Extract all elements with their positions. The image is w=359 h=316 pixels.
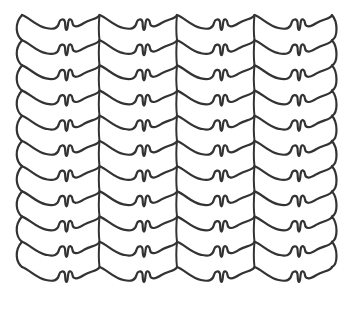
pattern-junction	[176, 15, 177, 40]
pattern-row-line	[22, 40, 337, 65]
pattern-junction	[254, 141, 255, 166]
pattern-row-line	[22, 91, 337, 116]
pattern-junction	[176, 217, 177, 242]
pattern-junction	[99, 91, 100, 116]
pattern-row-line	[22, 166, 337, 191]
pattern-junction	[254, 40, 255, 65]
pattern-junction	[99, 166, 100, 191]
pattern-left-lobe	[17, 40, 22, 65]
pattern-junction	[99, 40, 100, 65]
pattern-junction	[99, 116, 100, 141]
pattern-junction	[99, 65, 100, 90]
pattern-junction	[254, 91, 255, 116]
pattern-left-lobe	[17, 65, 22, 90]
pattern-row-line	[22, 116, 337, 141]
pattern-row-line	[22, 15, 337, 40]
pattern-left-lobe	[17, 166, 22, 191]
pattern-junction	[176, 166, 177, 191]
pattern-junction	[99, 141, 100, 166]
pattern-rows	[17, 15, 337, 282]
pattern-junction	[176, 141, 177, 166]
pattern-left-lobe	[17, 91, 22, 116]
pattern-row-line	[22, 217, 337, 242]
pattern-junction	[176, 65, 177, 90]
pattern-row-line	[22, 267, 332, 282]
pattern-junction	[99, 242, 100, 267]
pattern-junction	[254, 242, 255, 267]
pattern-junction	[254, 15, 255, 40]
pattern-junction	[254, 166, 255, 191]
pattern-junction	[254, 217, 255, 242]
pattern-row-line	[22, 65, 337, 90]
pattern-row-line	[22, 141, 337, 166]
pattern-junction	[254, 191, 255, 216]
pattern-row-line	[22, 242, 337, 267]
pattern-junction	[176, 191, 177, 216]
pattern-left-lobe	[17, 15, 22, 40]
pattern-left-lobe	[17, 141, 22, 166]
pattern-junction	[176, 91, 177, 116]
pattern-junction	[99, 191, 100, 216]
pattern-junction	[99, 15, 100, 40]
quilting-pattern	[0, 0, 359, 316]
pattern-left-lobe	[17, 242, 22, 267]
pattern-left-lobe	[17, 217, 22, 242]
pattern-junction	[254, 116, 255, 141]
pattern-left-lobe	[17, 116, 22, 141]
pattern-left-lobe	[17, 191, 22, 216]
pattern-junction	[176, 242, 177, 267]
pattern-junction	[254, 65, 255, 90]
pattern-junction	[99, 217, 100, 242]
pattern-junction	[176, 40, 177, 65]
pattern-row-line	[22, 191, 337, 216]
pattern-junction	[176, 116, 177, 141]
